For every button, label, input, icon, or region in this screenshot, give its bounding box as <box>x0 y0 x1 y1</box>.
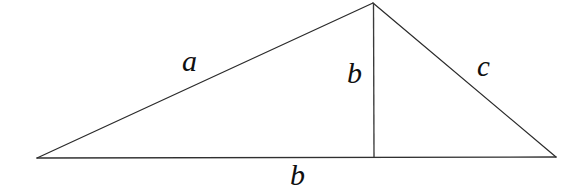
triangle-diagram: a b c b <box>0 0 574 196</box>
label-side-c: c <box>477 52 490 81</box>
triangle-left-side <box>37 3 373 158</box>
triangle-drawing-canvas <box>0 0 574 196</box>
label-altitude-b: b <box>347 58 362 88</box>
triangle-right-side <box>373 3 556 157</box>
label-side-a: a <box>182 46 197 76</box>
label-base-b: b <box>290 160 305 190</box>
triangle-altitude <box>374 3 375 157</box>
